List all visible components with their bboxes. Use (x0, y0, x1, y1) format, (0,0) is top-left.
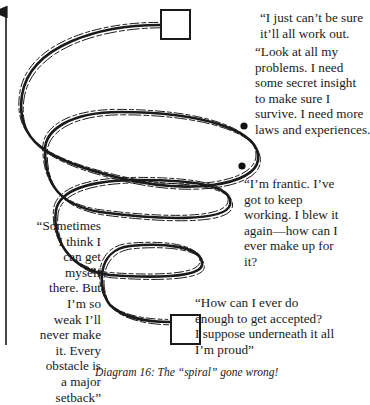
quote-how-can-i: “How can I ever do enough to get accepte… (195, 295, 334, 357)
quote-frantic: “I’m frantic. I’ve got to keep working. … (244, 176, 339, 270)
top-box (161, 10, 190, 39)
diagram-caption: Diagram 16: The “spiral” gone wrong! (95, 366, 278, 378)
quote-sometimes: “Sometimes I think I can get myself ther… (6, 218, 101, 405)
upper-dot-marker (240, 122, 247, 129)
quote-look-at-problems: “Look at all my problems. I need some se… (255, 44, 370, 138)
lower-dot-marker (238, 162, 245, 169)
quote-cant-be-sure: “I just can’t be sure it’ll all work out… (260, 10, 363, 41)
